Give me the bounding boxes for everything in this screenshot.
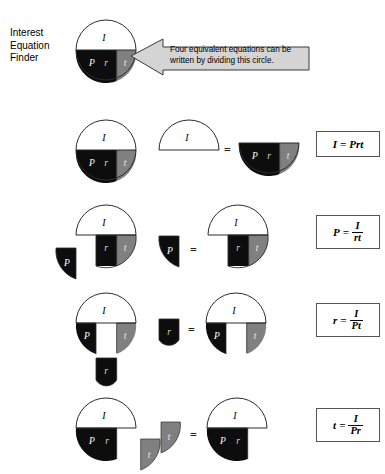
- equation-r-denominator: Pt: [350, 320, 363, 332]
- detached-piece-P: P: [56, 248, 76, 279]
- interest-equation-finder-page: Interest Equation Finder I P r t Four eq…: [0, 0, 385, 474]
- label-P: P: [63, 258, 70, 268]
- detached-piece-r: r: [96, 358, 117, 386]
- label-r: r: [236, 243, 240, 253]
- label-r: r: [104, 243, 108, 253]
- equation-box-i: I = Prt: [316, 131, 380, 157]
- equation-t-lhs: t: [333, 419, 336, 431]
- label-I: I: [101, 217, 106, 228]
- row-r-remainder-piece: I P t: [205, 292, 271, 358]
- label-P: P: [83, 331, 90, 341]
- equation-p-numerator: I: [353, 221, 361, 232]
- equation-r-lhs: r: [333, 314, 337, 326]
- row-r-equals-sign: =: [188, 323, 195, 338]
- row-p-left-diagram: I r t P: [75, 204, 147, 282]
- equation-r-numerator: I: [352, 309, 360, 320]
- row-p-isolated-piece: P: [158, 235, 184, 269]
- equation-r-fraction: I Pt: [350, 309, 363, 331]
- label-P: P: [88, 158, 95, 168]
- label-r: r: [267, 151, 271, 161]
- row-t-equals-sign: =: [190, 428, 197, 443]
- row-t-left-diagram: I P r t: [75, 397, 171, 467]
- equation-p-lhs: P: [333, 226, 340, 238]
- equation-t-numerator: I: [352, 414, 360, 425]
- row-i-left-diagram: I P r t: [75, 119, 137, 181]
- label-I: I: [233, 217, 238, 228]
- row-i-equals-sign: =: [224, 143, 231, 158]
- row-i-remainder-piece: P r t: [238, 142, 300, 176]
- label-P: P: [88, 436, 95, 446]
- label-t: t: [124, 243, 127, 253]
- row-t-isolated-piece: t: [160, 421, 186, 455]
- label-I: I: [231, 305, 236, 316]
- equation-i-rel: =: [340, 138, 346, 150]
- row-r-isolated-piece: r: [158, 318, 182, 346]
- equation-t-rel: =: [339, 419, 345, 431]
- label-P: P: [251, 151, 258, 161]
- equation-box-p: P = I rt: [316, 215, 380, 249]
- master-circle-diagram: I P r t: [75, 19, 137, 81]
- label-P: P: [219, 436, 226, 446]
- label-I: I: [232, 410, 237, 421]
- label-t: t: [124, 158, 127, 168]
- label-r: r: [104, 366, 108, 376]
- label-P: P: [88, 58, 95, 68]
- row-r-left-diagram: I P t r: [75, 292, 141, 384]
- row-p-equals-sign: =: [190, 243, 197, 258]
- label-t: t: [254, 331, 257, 341]
- detached-piece-t: t: [141, 439, 160, 470]
- equation-box-t: t = I Pr: [316, 408, 380, 442]
- label-P: P: [166, 246, 173, 256]
- equation-r-rel: =: [340, 314, 346, 326]
- label-r: r: [104, 158, 108, 168]
- page-title: Interest Equation Finder: [10, 27, 49, 65]
- equation-p-rel: =: [343, 226, 349, 238]
- label-t: t: [287, 151, 290, 161]
- row-i-isolated-piece: I: [158, 119, 220, 153]
- callout-banner: Four equivalent equations can be written…: [130, 36, 310, 74]
- equation-p-denominator: rt: [352, 232, 363, 244]
- label-I: I: [184, 132, 189, 143]
- label-I: I: [101, 410, 106, 421]
- label-t: t: [256, 243, 259, 253]
- label-I: I: [101, 132, 106, 143]
- label-t: t: [148, 450, 151, 460]
- row-p-remainder-piece: I r t: [207, 204, 273, 270]
- label-I: I: [101, 305, 106, 316]
- label-r: r: [167, 327, 171, 337]
- label-t: t: [168, 432, 171, 442]
- equation-t-fraction: I Pr: [348, 414, 363, 436]
- label-r: r: [105, 436, 109, 446]
- label-r: r: [236, 436, 240, 446]
- label-t: t: [124, 58, 127, 68]
- equation-t-denominator: Pr: [348, 425, 363, 437]
- equation-p-fraction: I rt: [352, 221, 363, 243]
- label-P: P: [213, 331, 220, 341]
- row-t-remainder-piece: I P r: [206, 397, 272, 463]
- label-r: r: [104, 58, 108, 68]
- label-t: t: [124, 331, 127, 341]
- equation-i-lhs: I: [333, 138, 337, 150]
- callout-text: Four equivalent equations can be written…: [170, 44, 304, 66]
- equation-box-r: r = I Pt: [316, 303, 380, 337]
- equation-i-rhs: Prt: [349, 138, 363, 150]
- label-I: I: [101, 32, 106, 43]
